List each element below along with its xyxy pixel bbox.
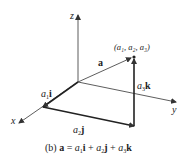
x-axis-label: x [10,115,16,126]
caption: (b) a = a1i + a2j + a3k [45,142,132,154]
a1i-label: a1i [41,88,52,100]
point-marker [132,55,135,58]
a2j-label: a2j [73,124,84,136]
y-axis-label: y [171,104,177,115]
z-axis-label: z [69,10,74,21]
vector-a-label: a [98,57,103,68]
component-a2j [43,107,134,126]
a3k-label: a3k [137,80,151,92]
point-label: (a₁, a₂, a₃) [114,42,150,52]
vector-a [78,58,131,82]
y-axis [78,82,176,102]
vector-diagram: z y x a (a₁, a₂, a₃) a1i a3k a2j (b) a =… [0,0,189,161]
